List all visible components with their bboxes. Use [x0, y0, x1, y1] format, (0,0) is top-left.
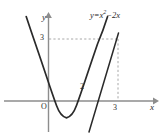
tangent-line — [89, 33, 119, 132]
curve-equation-suffix: −2x — [106, 10, 120, 20]
x-axis — [4, 98, 159, 105]
y-axis-arrow-icon — [45, 12, 52, 18]
x-tick-label-2: 2 — [80, 83, 84, 91]
y-axis-label: y — [42, 13, 46, 22]
curve-equation-label: y=x2−2x — [90, 11, 120, 20]
curve-equation-prefix: y=x — [90, 10, 103, 20]
plot-canvas — [0, 0, 164, 138]
parabola-curve-main — [26, 17, 107, 118]
y-axis — [45, 12, 52, 132]
origin-label: O — [41, 103, 47, 111]
x-axis-label: x — [150, 103, 154, 112]
y-tick-label-3: 3 — [40, 34, 44, 42]
x-tick-label-3: 3 — [113, 104, 117, 112]
graph-figure: y x O 3 3 2 y=x2−2x — [0, 0, 164, 138]
